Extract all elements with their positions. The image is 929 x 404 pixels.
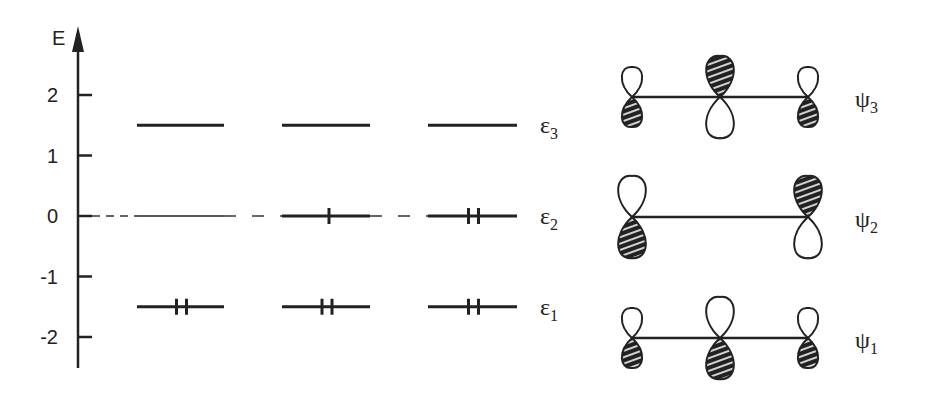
orbital-subscript: 3	[870, 99, 878, 116]
p-lobe-bottom-hatched	[706, 338, 734, 379]
p-lobe-bottom-open	[794, 217, 822, 258]
tick-label: 0	[47, 205, 58, 227]
p-lobe-bottom-hatched	[798, 97, 818, 127]
p-lobe-top-open	[622, 67, 642, 97]
orbital-subscript: 1	[870, 340, 878, 357]
axis-ticks: 210-1-2	[40, 84, 92, 348]
p-lobe-top-open	[622, 308, 642, 338]
p-lobe-bottom-hatched	[798, 338, 818, 368]
p-lobe-bottom-hatched	[618, 217, 646, 258]
orbital-pictures: ψ3ψ2ψ1	[618, 56, 878, 379]
axis-arrow-icon	[72, 26, 84, 52]
tick-label: 2	[47, 84, 58, 106]
orbital-symbol: ψ	[855, 86, 870, 112]
level-subscript: 1	[550, 307, 558, 324]
level-label-epsilon3: ε3	[540, 112, 558, 142]
p-lobe-bottom-open	[706, 97, 734, 138]
orbital-label-psi1: ψ1	[855, 327, 878, 357]
orbital-label-psi2: ψ2	[855, 206, 878, 236]
orbital-symbol: ψ	[855, 327, 870, 353]
p-lobe-top-hatched	[794, 176, 822, 217]
orbital-symbol: ψ	[855, 206, 870, 232]
orbital-psi2: ψ2	[618, 176, 878, 258]
orbital-subscript: 2	[870, 219, 878, 236]
p-lobe-bottom-hatched	[622, 97, 642, 127]
p-lobe-top-open	[706, 297, 734, 338]
energy-levels: ε3ε2ε1	[92, 112, 558, 324]
p-lobe-top-open	[798, 308, 818, 338]
orbital-psi3: ψ3	[622, 56, 878, 138]
level-symbol: ε	[540, 294, 550, 320]
tick-label: -1	[40, 266, 58, 288]
mo-energy-diagram: E 210-1-2 ε3ε2ε1 ψ3ψ2ψ1	[0, 0, 929, 404]
level-symbol: ε	[540, 203, 550, 229]
tick-label: 1	[47, 145, 58, 167]
p-lobe-top-open	[618, 176, 646, 217]
axis-label: E	[52, 27, 65, 49]
energy-axis: E	[52, 26, 84, 368]
level-subscript: 2	[550, 216, 558, 233]
p-lobe-top-open	[798, 67, 818, 97]
orbital-psi1: ψ1	[622, 297, 878, 379]
orbital-label-psi3: ψ3	[855, 86, 878, 116]
level-symbol: ε	[540, 112, 550, 138]
p-lobe-top-hatched	[706, 56, 734, 97]
level-subscript: 3	[550, 125, 558, 142]
tick-label: -2	[40, 326, 58, 348]
level-label-epsilon1: ε1	[540, 294, 558, 324]
p-lobe-bottom-hatched	[622, 338, 642, 368]
level-label-epsilon2: ε2	[540, 203, 558, 233]
